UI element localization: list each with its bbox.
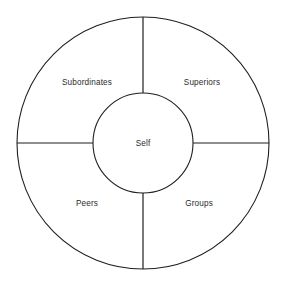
center-label-self: Self (136, 139, 151, 148)
sector-label-superiors: Superiors (184, 78, 220, 87)
sector-label-subordinates: Subordinates (62, 78, 112, 87)
role-set-diagram: Subordinates Superiors Peers Groups Self (0, 0, 281, 283)
sector-label-groups: Groups (185, 199, 213, 208)
sector-label-peers: Peers (76, 199, 98, 208)
